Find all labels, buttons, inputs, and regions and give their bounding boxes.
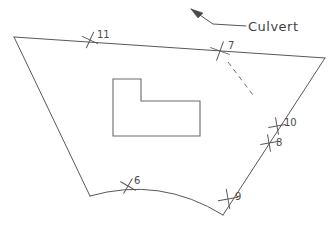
culvert-arrowhead-icon (191, 9, 203, 18)
survey-point-label-8: 8 (276, 137, 282, 148)
survey-point-label-11: 11 (97, 29, 110, 40)
survey-point-8: 8 (261, 135, 283, 152)
survey-point-label-6: 6 (134, 175, 140, 186)
survey-point-9: 9 (218, 189, 241, 208)
culvert-annotation: Culvert (191, 9, 299, 34)
building-footprint (113, 79, 200, 136)
boundary-left-edge (14, 37, 90, 196)
cross-marker-icon (82, 32, 97, 47)
cross-marker-icon (261, 135, 278, 152)
survey-point-11: 11 (82, 29, 109, 48)
survey-point-10: 10 (269, 117, 297, 134)
culvert-label: Culvert (248, 19, 299, 34)
boundary-bottom-curve (90, 189, 223, 215)
survey-point-label-10: 10 (284, 117, 297, 128)
culvert-run-dashed-line (228, 62, 253, 95)
boundary-top-edge (14, 37, 325, 58)
survey-point-label-7: 7 (228, 40, 234, 51)
site-plan-drawing: Culvert 11 7 10 (0, 0, 336, 231)
site-plan-canvas: Culvert 11 7 10 (0, 0, 336, 231)
survey-point-label-9: 9 (235, 191, 241, 202)
survey-point-6: 6 (121, 175, 141, 193)
